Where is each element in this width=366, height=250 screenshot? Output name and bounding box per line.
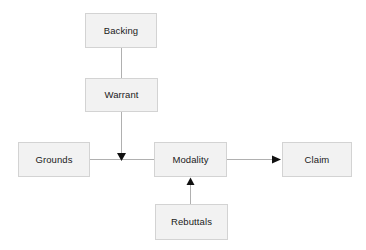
arrowhead-right-claim — [272, 156, 281, 164]
edge-rebuttals-to-modality — [187, 178, 195, 205]
node-label-claim: Claim — [305, 155, 330, 165]
edge-warrant-to-modality — [117, 112, 126, 161]
node-rebuttals[interactable]: Rebuttals — [155, 204, 228, 240]
node-backing[interactable]: Backing — [85, 13, 157, 48]
edge-modality-to-claim — [227, 156, 281, 164]
node-claim[interactable]: Claim — [282, 142, 352, 177]
node-warrant[interactable]: Warrant — [85, 78, 158, 112]
node-label-modality: Modality — [172, 155, 208, 165]
node-label-backing: Backing — [104, 26, 139, 36]
node-label-warrant: Warrant — [104, 90, 138, 100]
node-label-rebuttals: Rebuttals — [171, 217, 212, 227]
node-grounds[interactable]: Grounds — [18, 142, 90, 177]
node-label-grounds: Grounds — [35, 155, 72, 165]
diagram-canvas: Backing Warrant Grounds Modality Claim R… — [0, 0, 366, 250]
arrowhead-up-modality — [187, 178, 195, 186]
node-modality[interactable]: Modality — [154, 142, 227, 177]
